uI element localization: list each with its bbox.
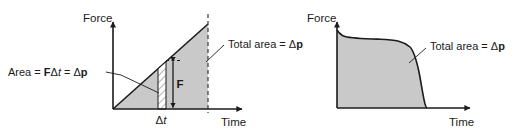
left-total-area-leader-line <box>206 45 224 62</box>
delta-t-symbol: t <box>163 114 167 126</box>
right-shaded-area <box>337 30 427 108</box>
strip-area-label: Area = FΔt = Δp <box>8 66 88 78</box>
left-x-axis-label: Time <box>221 116 246 128</box>
left-y-axis-label: Force <box>83 12 112 24</box>
right-panel: Force Time Total area = Δp <box>307 12 505 128</box>
right-total-area-label: Total area = Δp <box>430 40 505 52</box>
right-y-axis-label: Force <box>307 12 336 24</box>
delta-t-label: Δt <box>156 114 168 126</box>
left-panel: F Force Time Δt Area = FΔt = Δp Total ar… <box>8 12 303 128</box>
right-x-axis-label: Time <box>449 116 474 128</box>
impulse-strip <box>158 62 166 109</box>
left-total-area-label: Total area = Δp <box>228 38 303 50</box>
figure-canvas: F Force Time Δt Area = FΔt = Δp Total ar… <box>0 0 520 131</box>
force-magnitude-label: F <box>177 78 184 90</box>
impulse-momentum-figure: F Force Time Δt Area = FΔt = Δp Total ar… <box>0 0 520 131</box>
